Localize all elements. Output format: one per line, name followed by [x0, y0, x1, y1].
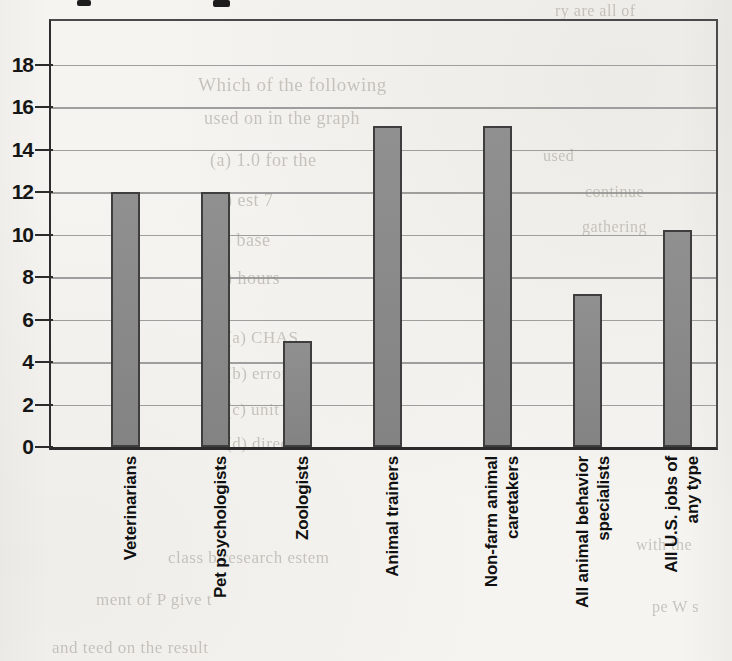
x-axis-label-all-animal-behavior: All animal behavior specialists: [572, 456, 614, 656]
scanned-chart-page: 024681012141618VeterinariansPet psycholo…: [0, 0, 732, 661]
x-axis-label-zoologists: Zoologists: [292, 456, 313, 656]
cropped-text-fragment: [77, 0, 91, 6]
y-axis-tick-label: 18: [0, 52, 33, 77]
y-axis-tick: [35, 149, 53, 151]
y-axis-tick: [35, 191, 53, 193]
cropped-text-fragment: [213, 0, 230, 7]
y-axis-tick-label: 6: [0, 307, 33, 332]
y-axis-tick: [35, 276, 53, 278]
y-axis-tick-label: 8: [0, 264, 33, 289]
x-axis-label-veterinarians: Veterinarians: [120, 456, 141, 656]
y-axis-tick: [35, 446, 53, 448]
y-axis-tick-label: 16: [0, 94, 33, 119]
y-axis-tick: [35, 361, 53, 363]
y-axis-tick: [35, 404, 53, 406]
y-axis-tick-label: 12: [0, 179, 33, 204]
y-axis-tick: [35, 106, 53, 108]
x-axis-label-all-u-s-jobs-of: All U.S. jobs of any type: [661, 456, 703, 656]
ghost-text: ry are all of: [555, 2, 636, 20]
x-axis-label-animal-trainers: Animal trainers: [382, 456, 403, 656]
x-axis-label-pet-psychologists: Pet psychologists: [210, 456, 231, 656]
ghost-text: ment of P give t: [96, 590, 212, 610]
y-axis-tick-label: 10: [0, 222, 33, 247]
y-axis-tick-label: 14: [0, 137, 33, 162]
y-axis-tick-label: 4: [0, 349, 33, 374]
x-axis-label-non-farm-animal: Non-farm animal caretakers: [481, 456, 523, 656]
y-axis-tick: [35, 64, 53, 66]
plot-area: [49, 19, 718, 450]
y-axis-tick-label: 0: [0, 434, 33, 459]
y-axis-tick-label: 2: [0, 392, 33, 417]
y-axis-tick: [35, 234, 53, 236]
y-axis-tick: [35, 319, 53, 321]
